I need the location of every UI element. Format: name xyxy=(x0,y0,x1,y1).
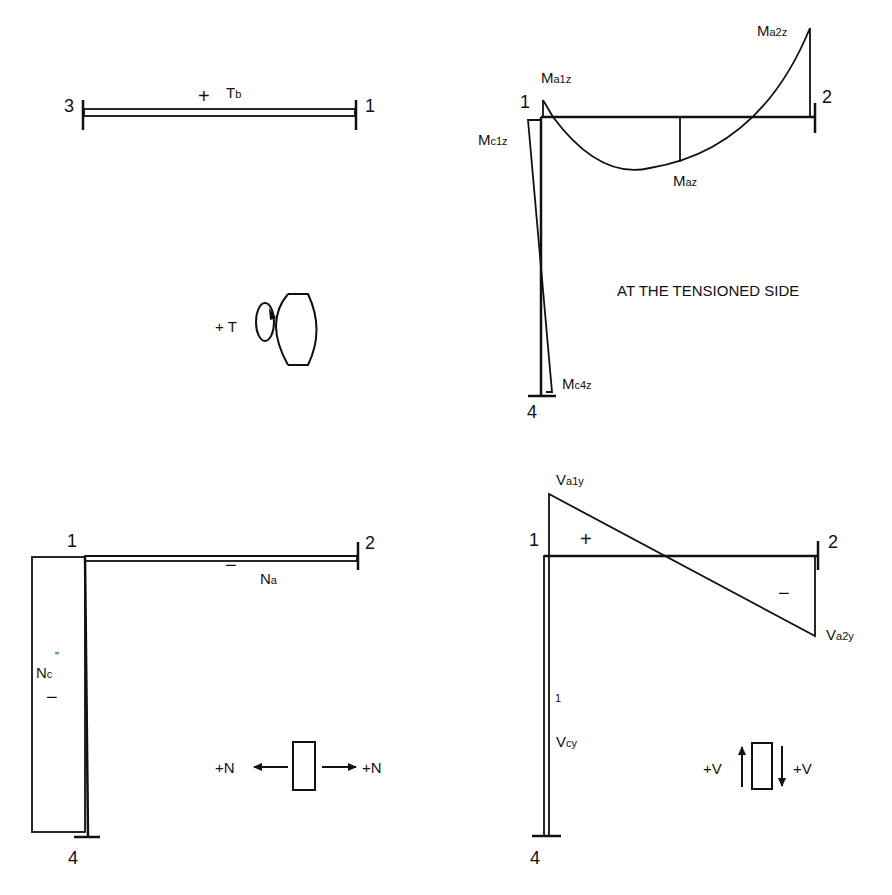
beam-axial-sign: − xyxy=(225,554,237,576)
node-label-1: 1 xyxy=(67,531,77,551)
node-label-1: 1 xyxy=(365,96,375,116)
convention-left-label: +V xyxy=(703,760,722,777)
torsion-curl-arrow-icon xyxy=(256,294,317,365)
negative-shear-sign: − xyxy=(778,582,790,604)
label-mc4z: Mc4z xyxy=(562,375,592,392)
label-maz: Maz xyxy=(673,172,697,189)
axial-diagram: 1 2 4 − Na Nc " − +N +N xyxy=(32,531,382,868)
node-label-4: 4 xyxy=(527,402,537,422)
node-label-4: 4 xyxy=(530,848,540,868)
beam-shear-line xyxy=(549,494,815,636)
node-label-4: 4 xyxy=(68,848,78,868)
node-label-1: 1 xyxy=(520,92,530,112)
column-tick-label: 1 xyxy=(555,692,561,704)
torsion-label: Tb xyxy=(226,84,241,101)
beam-moment-curve xyxy=(543,28,810,170)
shear-diagram: 1 2 4 + − Va1y Va2y Vcy 1 +V +V xyxy=(529,471,854,868)
label-mc1z: Mc1z xyxy=(478,131,508,148)
positive-shear-sign: + xyxy=(580,528,592,550)
torsion-sign: + xyxy=(198,85,210,107)
label-ma2z: Ma2z xyxy=(757,22,787,39)
label-nc: Nc xyxy=(36,664,53,681)
moment-diagram: 1 2 4 Ma1z Ma2z Maz Mc1z Mc4z AT THE TEN… xyxy=(478,22,832,422)
label-vcy: Vcy xyxy=(556,733,578,750)
node-label-3: 3 xyxy=(64,96,74,116)
tensioned-side-note: AT THE TENSIONED SIDE xyxy=(617,282,799,299)
column-axial-sign: − xyxy=(46,686,58,708)
column-shear-band xyxy=(544,556,549,836)
element-box xyxy=(752,743,772,789)
torsion-convention-label: + T xyxy=(215,318,237,335)
convention-right-label: +V xyxy=(793,760,812,777)
label-ma1z: Ma1z xyxy=(541,69,571,86)
axial-convention: +N +N xyxy=(215,742,382,790)
torsion-diagram: 3 1 + Tb + T xyxy=(64,84,375,365)
convention-left-label: +N xyxy=(215,759,235,776)
element-box xyxy=(293,742,315,790)
node-label-2: 2 xyxy=(828,532,838,552)
node-label-1: 1 xyxy=(529,530,539,550)
label-na: Na xyxy=(260,570,278,587)
node-label-2: 2 xyxy=(822,87,832,107)
torsion-band xyxy=(84,109,355,116)
shear-convention: +V +V xyxy=(703,743,812,789)
label-va1y: Va1y xyxy=(556,471,584,488)
node-label-2: 2 xyxy=(365,533,375,553)
convention-right-label: +N xyxy=(362,759,382,776)
column-axial-band xyxy=(32,557,85,832)
label-va2y: Va2y xyxy=(826,626,854,643)
label-nc-superscript: " xyxy=(55,650,59,662)
